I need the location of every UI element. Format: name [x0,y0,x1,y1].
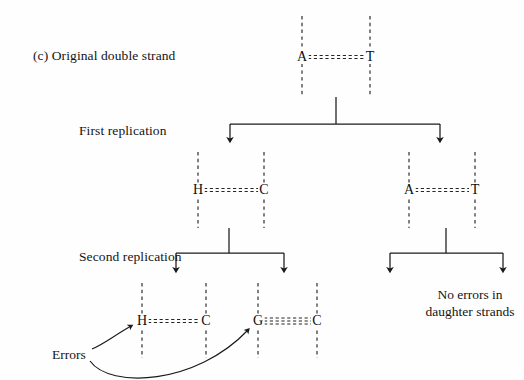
dna-replication-figure: (c) Original double strandFirst replicat… [0,0,524,380]
stage-label-second: Second replication [79,249,182,265]
base-letter-original-at-right: T [365,50,376,64]
no-errors-note-line2: daughter strands [426,303,515,320]
base-letter-gen2-gc-right: C [311,314,323,328]
base-letter-gen2-hc-left: H [136,314,149,328]
base-letter-gen2-hc-right: C [200,314,212,328]
stage-label-first: First replication [79,123,167,139]
base-letter-gen1-right-at-right: T [470,183,481,197]
base-letter-gen1-left-hc-left: H [192,183,205,197]
no-errors-note-line1: No errors in [426,286,515,303]
stage-label-original: (c) Original double strand [33,48,175,64]
error-pointer-arrows [90,326,248,378]
errors-annotation-label: Errors [52,347,86,363]
base-letter-gen1-left-hc-right: C [258,183,270,197]
error-arrow-to-h [92,326,131,349]
no-errors-note: No errors in daughter strands [426,286,515,321]
replication-branch-connectors [176,97,503,270]
base-letter-gen1-right-at-left: A [403,183,416,197]
base-letter-original-at-left: A [296,50,309,64]
base-letter-gen2-gc-left: G [252,314,265,328]
